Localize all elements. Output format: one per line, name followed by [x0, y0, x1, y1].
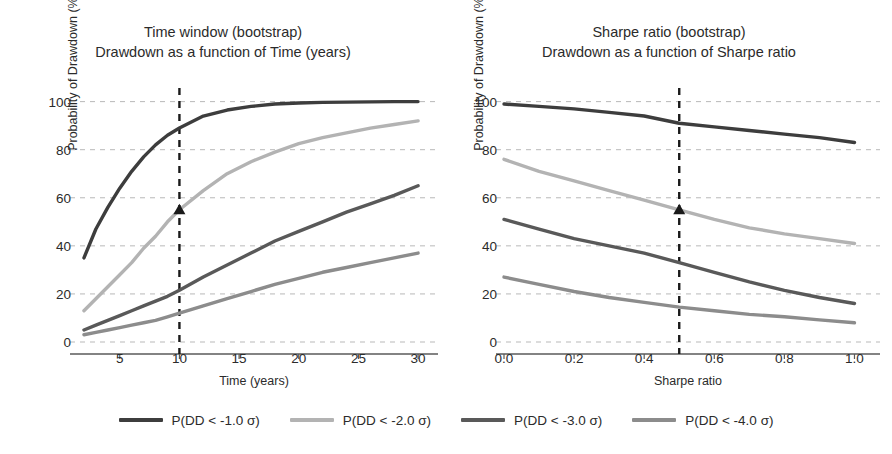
- x-axis-tick-label: 0.2: [565, 351, 584, 366]
- legend-swatch-icon: [461, 418, 505, 422]
- y-axis-tick-label: 60: [482, 190, 497, 205]
- plot-svg-left: [78, 92, 430, 342]
- plot-svg-right: [504, 92, 872, 342]
- legend-label: P(DD < -3.0 σ): [514, 413, 602, 428]
- x-axis-tick-label: 15: [232, 351, 247, 366]
- x-axis-tick-label: 0.8: [775, 351, 794, 366]
- panel-right-subtitle: Drawdown as a function of Sharpe ratio: [446, 42, 892, 63]
- y-axis-tick-label: 40: [56, 238, 71, 253]
- panel-right-title: Sharpe ratio (bootstrap): [446, 22, 892, 42]
- y-axis-tick-label: 60: [56, 190, 71, 205]
- y-axis-tick-label: 20: [56, 286, 71, 301]
- panel-right-titles: Sharpe ratio (bootstrap) Drawdown as a f…: [446, 22, 892, 63]
- legend-item[interactable]: P(DD < -1.0 σ): [119, 413, 260, 428]
- y-axis-tick-label: 40: [482, 238, 497, 253]
- x-axis-tick-label: 20: [291, 351, 306, 366]
- x-axis-tick-label: 30: [411, 351, 426, 366]
- x-axis-tick-label: 1.0: [845, 351, 864, 366]
- y-axis-tick-label: 0: [63, 335, 71, 350]
- legend-swatch-icon: [632, 418, 676, 422]
- legend-item[interactable]: P(DD < -3.0 σ): [461, 413, 602, 428]
- x-axis-tick-label: 10: [172, 351, 187, 366]
- y-axis-tick-label: 100: [48, 94, 71, 109]
- x-axis-tick-label: 25: [351, 351, 366, 366]
- x-axis-tick-label: 0.6: [705, 351, 724, 366]
- legend-item[interactable]: P(DD < -4.0 σ): [632, 413, 773, 428]
- legend-swatch-icon: [119, 418, 163, 422]
- x-axis-tick-label: 0.4: [635, 351, 654, 366]
- legend-item[interactable]: P(DD < -2.0 σ): [290, 413, 431, 428]
- x-axis-tick-label: 5: [116, 351, 124, 366]
- legend-swatch-icon: [290, 418, 334, 422]
- y-axis-tick-label: 0: [489, 335, 497, 350]
- legend-label: P(DD < -2.0 σ): [343, 413, 431, 428]
- plot-area-right: Probability of Drawdown (%) Sharpe ratio…: [504, 92, 872, 342]
- y-axis-tick-label: 80: [56, 142, 71, 157]
- y-axis-tick-label: 20: [482, 286, 497, 301]
- x-axis-label-right: Sharpe ratio: [504, 374, 872, 388]
- chart-panel-time-window: Time window (bootstrap) Drawdown as a fu…: [0, 0, 446, 396]
- y-axis-tick-label: 100: [474, 94, 497, 109]
- plot-area-left: Probability of Drawdown (%) Time (years)…: [78, 92, 430, 342]
- y-axis-tick-label: 80: [482, 142, 497, 157]
- x-axis-tick-label: 0.0: [495, 351, 514, 366]
- chart-legend: P(DD < -1.0 σ)P(DD < -2.0 σ)P(DD < -3.0 …: [0, 404, 892, 436]
- legend-label: P(DD < -4.0 σ): [685, 413, 773, 428]
- figure-container: Time window (bootstrap) Drawdown as a fu…: [0, 0, 892, 454]
- chart-panel-sharpe-ratio: Sharpe ratio (bootstrap) Drawdown as a f…: [446, 0, 892, 396]
- legend-label: P(DD < -1.0 σ): [172, 413, 260, 428]
- x-axis-label-left: Time (years): [78, 374, 430, 388]
